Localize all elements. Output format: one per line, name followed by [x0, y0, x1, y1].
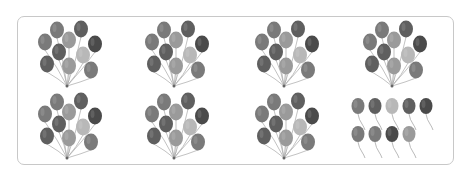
balloon-bunch: [140, 92, 210, 162]
loose-balloons-icon: [348, 92, 438, 158]
balloon-bunch: [33, 20, 103, 90]
balloon-bunch-icon: [33, 20, 103, 90]
balloon-bunch-icon: [358, 20, 428, 90]
balloon-bunch: [140, 20, 210, 90]
balloon-bunch: [358, 20, 428, 90]
balloon-bunch-icon: [140, 92, 210, 162]
balloon-bunch-icon: [250, 92, 320, 162]
loose-balloons: [348, 92, 438, 158]
balloon-bunch: [250, 92, 320, 162]
balloon-bunch-icon: [250, 20, 320, 90]
balloon-bunch-icon: [140, 20, 210, 90]
balloon-bunch: [250, 20, 320, 90]
balloon-bunch: [33, 92, 103, 162]
balloon-bunch-icon: [33, 92, 103, 162]
